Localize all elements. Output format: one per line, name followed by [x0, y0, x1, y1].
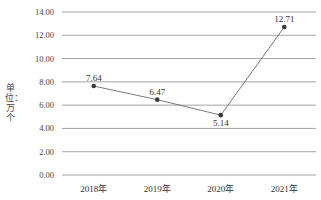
- data-label: 5.14: [213, 118, 229, 128]
- y-tick-label: 4.00: [39, 123, 54, 133]
- data-markers: [91, 25, 286, 118]
- y-tick-label: 0.00: [39, 170, 54, 180]
- y-tick-label: 2.00: [39, 147, 54, 157]
- data-labels: 7.646.475.1412.71: [86, 14, 295, 128]
- data-label: 6.47: [149, 87, 165, 97]
- data-label: 7.64: [86, 73, 102, 83]
- series-line: [94, 27, 285, 115]
- data-point: [155, 97, 160, 102]
- x-tick-label: 2021年: [271, 183, 298, 194]
- x-axis-ticks: 2018年2019年2020年2021年: [80, 183, 298, 194]
- x-tick-label: 2020年: [207, 183, 234, 194]
- x-tick-label: 2018年: [80, 183, 107, 194]
- data-point: [282, 25, 287, 30]
- y-axis-label: 单位：万个: [5, 83, 16, 123]
- y-tick-label: 14.00: [35, 7, 54, 17]
- y-tick-label: 8.00: [39, 77, 54, 87]
- line-chart: 0.002.004.006.008.0010.0012.0014.00 2018…: [0, 0, 321, 200]
- data-point: [218, 113, 223, 118]
- y-tick-label: 10.00: [35, 54, 54, 64]
- y-axis-ticks: 0.002.004.006.008.0010.0012.0014.00: [35, 7, 54, 180]
- data-label: 12.71: [274, 14, 294, 24]
- y-tick-label: 12.00: [35, 30, 54, 40]
- y-tick-label: 6.00: [39, 100, 54, 110]
- data-point: [91, 84, 96, 89]
- x-tick-label: 2019年: [144, 183, 171, 194]
